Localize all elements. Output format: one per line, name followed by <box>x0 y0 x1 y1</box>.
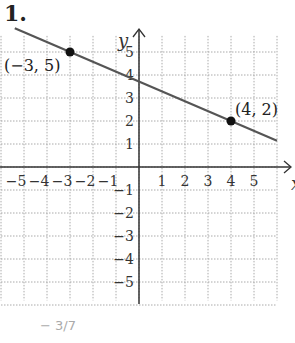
point-label: (−3, 5) <box>4 56 60 75</box>
data-point <box>66 48 75 57</box>
y-tick-label: 3 <box>125 90 134 106</box>
x-tick-label: 4 <box>227 173 236 189</box>
point-label: (4, 2) <box>235 100 278 119</box>
y-tick-label: −5 <box>113 274 134 290</box>
x-tick-label: −3 <box>52 173 73 189</box>
x-tick-label: 5 <box>250 173 259 189</box>
x-tick-label: −5 <box>6 173 27 189</box>
y-tick-label: 1 <box>125 136 134 152</box>
x-axis-label: x <box>291 173 295 194</box>
y-tick-label: −3 <box>113 228 134 244</box>
y-tick-label: 2 <box>125 113 134 129</box>
y-tick-label: −2 <box>113 205 134 221</box>
x-tick-label: 2 <box>181 173 190 189</box>
y-tick-label: 5 <box>125 44 134 60</box>
coordinate-plane: yx−5−4−3−2−11234554321−1−2−3−4−5(−3, 5)(… <box>0 0 295 343</box>
x-tick-label: −4 <box>29 173 50 189</box>
x-tick-label: 1 <box>158 173 167 189</box>
answer-hint: − 3/7 <box>40 318 76 333</box>
x-tick-label: 3 <box>204 173 213 189</box>
y-tick-label: −4 <box>113 251 134 267</box>
y-tick-label: −1 <box>113 182 134 198</box>
x-tick-label: −2 <box>75 173 96 189</box>
plotted-line <box>15 28 277 140</box>
slope-answer-faded: − 3/7 <box>40 318 76 333</box>
